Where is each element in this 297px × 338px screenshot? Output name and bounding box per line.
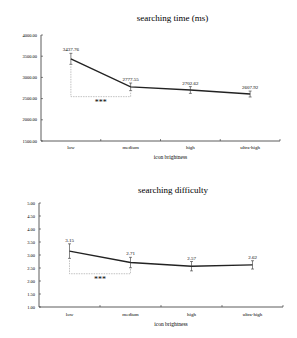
y-tick-label: 4.50 <box>27 214 36 219</box>
data-value-label: 2702.62 <box>182 81 199 86</box>
data-value-label: 2.62 <box>248 255 257 260</box>
chart-title: searching difficulty <box>138 185 209 195</box>
x-category-label: medium <box>122 145 138 150</box>
y-tick-label: 4000.00 <box>22 33 37 38</box>
data-value-label: 2777.55 <box>123 77 140 82</box>
significance-stars: *** <box>95 98 107 107</box>
y-tick-label: 5.00 <box>27 201 36 206</box>
x-axis-label: icon brightness <box>154 321 187 327</box>
significance-bracket <box>70 260 131 273</box>
y-tick-label: 1.00 <box>27 305 36 310</box>
charts-figure: searching time (ms)4000.003500.003000.00… <box>0 0 297 338</box>
x-category-label: low <box>67 145 75 150</box>
y-tick-label: 4.00 <box>27 227 36 232</box>
x-category-label: ultra-high <box>240 145 260 150</box>
y-tick-label: 1.50 <box>27 292 36 297</box>
y-tick-label: 3000.00 <box>22 75 37 80</box>
y-tick-label: 2000.00 <box>22 117 37 122</box>
y-tick-label: 3.50 <box>27 240 36 245</box>
x-category-label: high <box>186 145 195 150</box>
y-tick-label: 2.00 <box>27 279 36 284</box>
x-category-label: low <box>66 312 74 317</box>
y-tick-label: 3500.00 <box>22 54 37 59</box>
y-tick-label: 2500.00 <box>22 96 37 101</box>
data-value-label: 3437.76 <box>63 47 80 52</box>
data-line <box>70 251 253 266</box>
x-category-label: ultra-high <box>243 312 263 317</box>
data-value-label: 2.71 <box>126 251 135 256</box>
significance-stars: *** <box>94 275 106 284</box>
data-value-label: 2.57 <box>187 256 196 261</box>
x-category-label: medium <box>122 312 138 317</box>
x-axis-label: icon brightness <box>154 154 187 160</box>
y-tick-label: 2.50 <box>27 266 36 271</box>
y-tick-label: 3.00 <box>27 253 36 258</box>
data-line <box>71 59 250 94</box>
data-value-label: 3.15 <box>65 238 74 243</box>
y-tick-label: 1500.00 <box>22 139 37 144</box>
data-value-label: 2607.92 <box>242 85 259 90</box>
x-category-label: high <box>187 312 196 317</box>
chart-title: searching time (ms) <box>137 13 208 23</box>
